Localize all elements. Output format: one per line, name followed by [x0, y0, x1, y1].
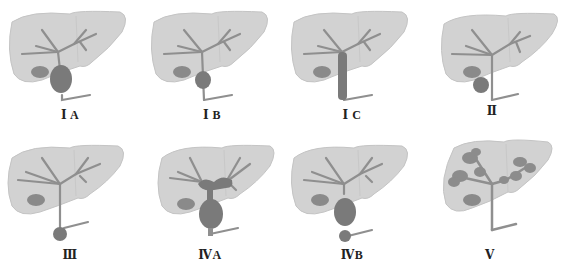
panel-label: Ⅰ C [282, 108, 422, 123]
panel-label: Ⅰ B [142, 108, 282, 123]
panel-type-ia: Ⅰ A [0, 0, 140, 136]
panel-type-iva: ⅣA [140, 136, 280, 272]
panel-type-v: Ⅴ [420, 136, 560, 272]
panel-label: Ⅰ A [0, 108, 140, 123]
panel-type-ii: Ⅱ [422, 0, 562, 136]
panel-type-ic: Ⅰ C [282, 0, 422, 136]
panel-type-ib: Ⅰ B [142, 0, 282, 136]
panel-label: ⅣB [282, 248, 422, 263]
panel-label: Ⅲ [0, 248, 140, 263]
panel-label: Ⅴ [420, 248, 560, 263]
panel-label: ⅣA [140, 248, 280, 263]
panel-type-ivb: ⅣB [282, 136, 422, 272]
panel-type-iii: Ⅲ [0, 136, 140, 272]
panel-label: Ⅱ [422, 104, 562, 119]
